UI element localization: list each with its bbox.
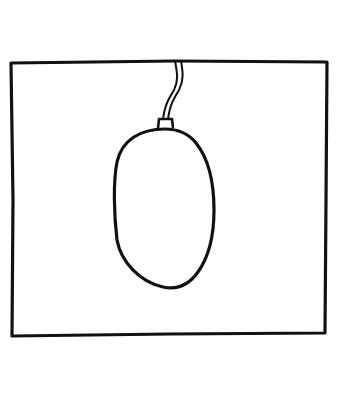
line-illustration [0,0,345,412]
cap-icon [158,119,173,128]
cord-icon [163,61,183,119]
oval-body [114,129,214,288]
